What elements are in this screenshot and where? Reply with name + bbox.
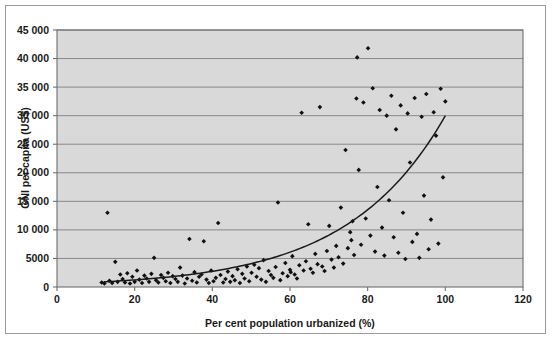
y-tick-label: 5000 <box>26 252 50 264</box>
y-tick-label: 45 000 <box>17 24 49 36</box>
y-tick-label: 10 000 <box>17 223 49 235</box>
y-tick-label: 40 000 <box>17 52 49 64</box>
x-axis-ticks: 020406080100120 <box>54 287 532 305</box>
x-tick-label: 20 <box>129 293 141 305</box>
x-tick-label: 100 <box>437 293 455 305</box>
scatter-chart: 020406080100120 0500010 00015 00020 0002… <box>0 0 553 340</box>
x-tick-label: 60 <box>284 293 296 305</box>
x-tick-label: 80 <box>362 293 374 305</box>
x-axis-title: Per cent population urbanized (%) <box>205 317 375 329</box>
plot-background <box>57 30 523 287</box>
y-tick-label: 35 000 <box>17 81 49 93</box>
y-axis-title: GNI per capita (US$) <box>19 107 31 209</box>
y-tick-label: 0 <box>43 281 49 293</box>
x-tick-label: 0 <box>54 293 60 305</box>
figure-container: 020406080100120 0500010 00015 00020 0002… <box>0 0 553 340</box>
x-tick-label: 40 <box>206 293 218 305</box>
x-tick-label: 120 <box>514 293 532 305</box>
